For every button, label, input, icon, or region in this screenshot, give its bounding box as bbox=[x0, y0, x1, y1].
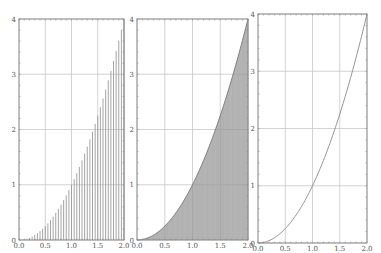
y-tick-label: 4 bbox=[251, 11, 256, 19]
y-tick-label: 3 bbox=[12, 71, 16, 79]
y-tick-label: 3 bbox=[251, 68, 255, 76]
x-tick-label: 1.5 bbox=[334, 245, 345, 253]
x-tick-label: 1.0 bbox=[307, 245, 318, 253]
y-tick-label: 1 bbox=[130, 181, 134, 189]
y-tick-label: 4 bbox=[12, 16, 17, 24]
y-tick-label: 0 bbox=[130, 237, 134, 245]
stem-plot-panel: 0.00.51.01.52.001234 bbox=[12, 16, 130, 251]
y-tick-label: 1 bbox=[251, 182, 255, 190]
x-tick-label: 1.0 bbox=[187, 242, 198, 250]
x-tick-label: 2.0 bbox=[118, 242, 129, 250]
y-tick-label: 0 bbox=[251, 240, 255, 248]
y-tick-label: 3 bbox=[130, 71, 134, 79]
y-tick-label: 2 bbox=[251, 125, 255, 133]
y-tick-label: 2 bbox=[130, 126, 134, 134]
line-plot-panel: 0.00.51.01.52.001234 bbox=[251, 11, 373, 253]
x-tick-label: 1.5 bbox=[92, 242, 103, 250]
x-tick-label: 0.5 bbox=[280, 245, 291, 253]
y-tick-label: 2 bbox=[12, 126, 16, 134]
figure-canvas: 0.00.51.01.52.001234 0.00.51.01.52.00123… bbox=[0, 0, 381, 253]
y-tick-label: 1 bbox=[12, 181, 16, 189]
x-tick-label: 1.5 bbox=[215, 242, 226, 250]
x-tick-label: 1.0 bbox=[66, 242, 77, 250]
y-tick-label: 4 bbox=[130, 16, 135, 24]
x-tick-label: 0.5 bbox=[40, 242, 51, 250]
x-tick-label: 0.5 bbox=[159, 242, 170, 250]
x-tick-label: 2.0 bbox=[361, 245, 372, 253]
y-tick-label: 0 bbox=[12, 237, 16, 245]
dense-stem-plot-panel: 0.00.51.01.52.001234 bbox=[130, 16, 254, 251]
